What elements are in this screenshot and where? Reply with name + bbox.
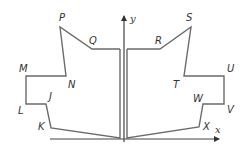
x-axis-label: x: [215, 124, 221, 135]
vertex-label-j: J: [47, 91, 52, 102]
vertex-label-n: N: [68, 79, 76, 90]
vertex-label-w: W: [193, 93, 204, 104]
y-axis-label: y: [129, 13, 136, 24]
vertex-label-k: K: [38, 121, 46, 132]
vertex-label-r: R: [155, 35, 162, 46]
vertex-label-x: X: [202, 121, 211, 132]
vertex-label-m: M: [19, 63, 28, 74]
vertex-label-v: V: [227, 104, 235, 115]
vertex-label-s: S: [186, 12, 193, 23]
vertex-label-u: U: [227, 63, 235, 74]
vertex-label-p: P: [59, 12, 66, 23]
reflection-diagram: y x P Q M N L J K R S T U W V X: [0, 0, 248, 153]
vertex-label-t: T: [173, 79, 180, 90]
vertex-label-q: Q: [89, 35, 97, 46]
vertex-label-l: L: [18, 105, 24, 116]
